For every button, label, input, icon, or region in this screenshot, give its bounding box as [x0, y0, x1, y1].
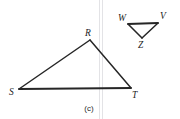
edge-ZW: [128, 24, 142, 38]
vertex-label-S: S: [9, 87, 14, 97]
triangle-RST: [19, 40, 131, 89]
geometry-figure-panel: R S T W V Z (c): [0, 0, 180, 119]
scan-artifact-group: [100, 0, 103, 119]
geometry-figure-svg: R S T W V Z (c): [0, 0, 180, 119]
edge-VZ: [142, 23, 158, 38]
vertex-label-V: V: [160, 11, 167, 21]
triangle-WVZ: [128, 23, 158, 38]
vertex-label-W: W: [118, 13, 127, 23]
edge-RT: [90, 40, 131, 88]
vertex-label-Z: Z: [138, 40, 144, 50]
figure-caption: (c): [84, 104, 94, 113]
vertex-label-T: T: [132, 90, 138, 100]
edge-SR: [19, 40, 90, 89]
edge-WV: [128, 23, 158, 24]
edge-ST: [19, 88, 131, 89]
vertex-label-R: R: [84, 28, 91, 38]
